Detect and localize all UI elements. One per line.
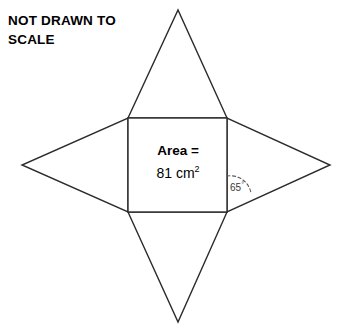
figure-page: NOT DRAWN TO SCALE Area = 81 cm2 65° (0, 0, 349, 330)
area-label-title: Area = (128, 143, 228, 158)
area-value-exponent: 2 (195, 164, 200, 174)
triangle-right (227, 118, 330, 212)
triangle-top (128, 10, 227, 118)
area-value-number: 81 cm (156, 165, 194, 181)
not-drawn-to-scale-line-1: NOT DRAWN TO (8, 13, 116, 28)
not-drawn-to-scale-line-2: SCALE (8, 32, 55, 47)
angle-degree-symbol: ° (241, 181, 244, 188)
triangle-left (22, 118, 128, 212)
angle-label-65: 65° (230, 182, 244, 193)
triangle-bottom (128, 212, 227, 322)
angle-value-number: 65 (230, 182, 241, 193)
area-label-value: 81 cm2 (128, 165, 228, 181)
